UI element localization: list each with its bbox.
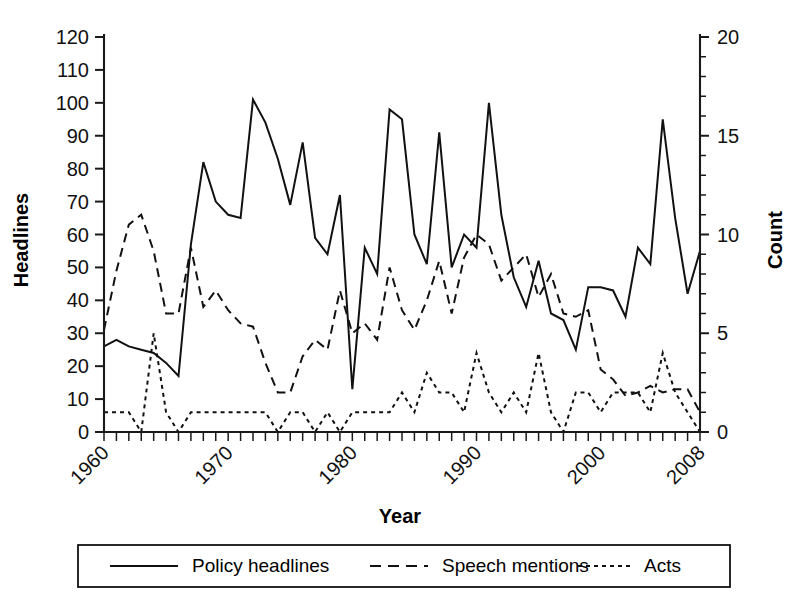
y-axis-tick-label: 50 — [67, 256, 89, 278]
y2-axis-tick-label: 20 — [717, 26, 739, 48]
x-axis-tick-label: 2000 — [562, 441, 609, 488]
x-axis: 196019701980199020002008 — [66, 432, 709, 488]
y-axis-tick-label: 100 — [56, 92, 89, 114]
line-chart-figure: 0102030405060708090100110120 05101520 19… — [0, 0, 808, 613]
y-axis-tick-label: 80 — [67, 158, 89, 180]
y-axis-tick-label: 120 — [56, 26, 89, 48]
series-line-policy-headlines — [104, 100, 700, 390]
series-line-acts — [104, 333, 700, 432]
plot-area — [104, 100, 700, 432]
y-axis-tick-label: 30 — [67, 322, 89, 344]
y-axis-tick-label: 90 — [67, 125, 89, 147]
y-axis-tick-label: 60 — [67, 224, 89, 246]
chart-container: 0102030405060708090100110120 05101520 19… — [0, 0, 808, 613]
x-axis-title: Year — [379, 505, 421, 527]
y-axis-right-title: Count — [764, 211, 786, 269]
x-axis-tick-label: 1960 — [66, 441, 113, 488]
x-axis-tick-label: 1970 — [190, 441, 237, 488]
y-axis-left-title: Headlines — [10, 193, 32, 287]
chart-legend: Policy headlinesSpeech mentionsActs — [78, 545, 730, 587]
y2-axis-tick-label: 15 — [717, 125, 739, 147]
series-line-speech-mentions — [104, 215, 700, 413]
legend-label-acts: Acts — [644, 555, 681, 576]
y2-axis-tick-label: 5 — [717, 322, 728, 344]
x-axis-tick-label: 1980 — [314, 441, 361, 488]
y-axis-tick-label: 40 — [67, 289, 89, 311]
legend-label-speech-mentions: Speech mentions — [442, 555, 589, 576]
y-axis-tick-label: 110 — [57, 59, 89, 81]
y-axis-tick-label: 10 — [67, 388, 89, 410]
y2-axis-tick-label: 10 — [717, 224, 739, 246]
x-axis-tick-label: 2008 — [662, 441, 709, 488]
y-axis-left: 0102030405060708090100110120 — [56, 26, 104, 443]
y2-axis-tick-label: 0 — [717, 421, 728, 443]
y-axis-tick-label: 70 — [67, 191, 89, 213]
x-axis-tick-label: 1990 — [438, 441, 485, 488]
y-axis-tick-label: 0 — [78, 421, 89, 443]
y-axis-right: 05101520 — [700, 26, 739, 443]
legend-label-policy-headlines: Policy headlines — [192, 555, 329, 576]
series-group — [104, 100, 700, 432]
y-axis-tick-label: 20 — [67, 355, 89, 377]
